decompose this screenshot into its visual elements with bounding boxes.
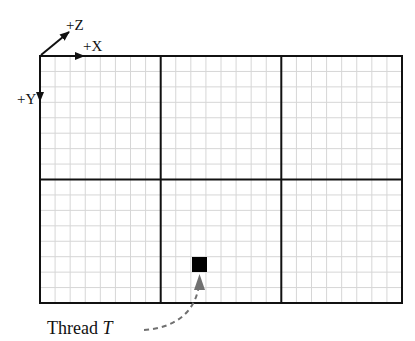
thread-label: Thread T [47,318,112,339]
thread-label-text: Thread [47,318,102,338]
thread-label-var: T [102,318,112,338]
z-axis-label: +Z [66,18,84,33]
thread-cell [192,257,207,272]
y-axis-label: +Y [17,92,36,107]
cuda-grid-diagram [0,0,415,341]
z-axis-arrow [41,32,69,55]
thread-pointer-arrowhead [194,274,205,290]
axis-arrows [40,32,84,101]
x-axis-label: +X [83,39,102,54]
